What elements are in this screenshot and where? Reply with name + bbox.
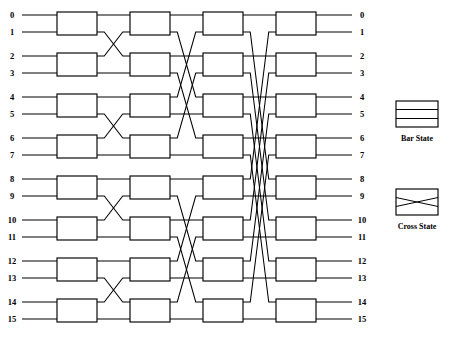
link-s3-cross-up-6 xyxy=(243,114,276,261)
switch-box-s4-p3[interactable] xyxy=(276,135,316,158)
switch-box-s3-p5[interactable] xyxy=(203,217,243,240)
switch-box-s3-p1[interactable] xyxy=(203,53,243,76)
input-label-0: 0 xyxy=(10,10,14,20)
legend-cross-state: Cross State xyxy=(396,189,438,231)
link-s3-cross-up-4 xyxy=(243,32,276,179)
switch-box-s4-p1[interactable] xyxy=(276,53,316,76)
switch-box-s4-p0[interactable] xyxy=(276,12,316,35)
switch-box-s1-p2[interactable] xyxy=(57,94,97,117)
link-s3-cross-up-5 xyxy=(243,73,276,220)
output-label-8: 8 xyxy=(360,174,364,184)
switch-box-s1-p0[interactable] xyxy=(57,12,97,35)
input-label-13: 13 xyxy=(8,273,17,283)
cross-state-label: Cross State xyxy=(398,222,437,231)
input-label-15: 15 xyxy=(8,314,17,324)
output-label-2: 2 xyxy=(360,51,364,61)
output-label-14: 14 xyxy=(358,297,367,307)
input-label-4: 4 xyxy=(10,92,15,102)
switch-box-s2-p7[interactable] xyxy=(130,299,170,322)
switch-box-s2-p2[interactable] xyxy=(130,94,170,117)
switch-box-s3-p2[interactable] xyxy=(203,94,243,117)
link-s2-cross-up-3 xyxy=(170,73,203,138)
link-s1-cross-up-5 xyxy=(97,196,130,220)
switch-box-s4-p2[interactable] xyxy=(276,94,316,117)
switch-box-s2-p1[interactable] xyxy=(130,53,170,76)
link-s1-cross-up-7 xyxy=(97,278,130,302)
input-label-9: 9 xyxy=(10,191,14,201)
network-canvas: 0123456789101112131415012345678910111213… xyxy=(0,0,449,338)
link-s3-cross-up-7 xyxy=(243,155,276,302)
switch-box-s3-p7[interactable] xyxy=(203,299,243,322)
output-label-5: 5 xyxy=(360,109,364,119)
input-label-7: 7 xyxy=(10,150,15,160)
input-label-11: 11 xyxy=(8,232,16,242)
switch-box-s2-p0[interactable] xyxy=(130,12,170,35)
switch-box-s3-p3[interactable] xyxy=(203,135,243,158)
switch-box-s2-p3[interactable] xyxy=(130,135,170,158)
network-diagram: 0123456789101112131415012345678910111213… xyxy=(0,0,449,338)
bar-state-box xyxy=(396,101,438,127)
switch-box-s2-p6[interactable] xyxy=(130,258,170,281)
switch-box-s1-p5[interactable] xyxy=(57,217,97,240)
switch-box-s4-p7[interactable] xyxy=(276,299,316,322)
input-label-8: 8 xyxy=(10,174,14,184)
output-label-11: 11 xyxy=(358,232,366,242)
output-label-13: 13 xyxy=(358,273,367,283)
switch-box-s3-p0[interactable] xyxy=(203,12,243,35)
output-label-9: 9 xyxy=(360,191,364,201)
input-label-6: 6 xyxy=(10,133,14,143)
link-s2-cross-up-6 xyxy=(170,196,203,261)
switch-box-s1-p7[interactable] xyxy=(57,299,97,322)
input-label-10: 10 xyxy=(8,215,17,225)
output-label-15: 15 xyxy=(358,314,367,324)
switch-box-s1-p6[interactable] xyxy=(57,258,97,281)
link-s2-cross-up-2 xyxy=(170,32,203,97)
input-label-5: 5 xyxy=(10,109,14,119)
output-label-0: 0 xyxy=(360,10,364,20)
output-label-6: 6 xyxy=(360,133,364,143)
bar-state-label: Bar State xyxy=(401,134,434,143)
link-s2-cross-up-7 xyxy=(170,237,203,302)
legend-bar-state: Bar State xyxy=(396,101,438,143)
output-label-12: 12 xyxy=(358,256,367,266)
input-label-1: 1 xyxy=(10,27,14,37)
switch-box-s4-p4[interactable] xyxy=(276,176,316,199)
switch-box-s1-p3[interactable] xyxy=(57,135,97,158)
input-label-2: 2 xyxy=(10,51,14,61)
switch-box-s3-p4[interactable] xyxy=(203,176,243,199)
switch-box-s2-p5[interactable] xyxy=(130,217,170,240)
switch-box-s4-p5[interactable] xyxy=(276,217,316,240)
output-label-4: 4 xyxy=(360,92,365,102)
switch-boxes-layer xyxy=(57,12,316,322)
input-label-12: 12 xyxy=(8,256,17,266)
input-label-3: 3 xyxy=(10,68,14,78)
input-label-14: 14 xyxy=(8,297,17,307)
switch-box-s2-p4[interactable] xyxy=(130,176,170,199)
output-label-7: 7 xyxy=(360,150,365,160)
switch-box-s1-p1[interactable] xyxy=(57,53,97,76)
link-s1-cross-up-3 xyxy=(97,114,130,138)
switch-box-s3-p6[interactable] xyxy=(203,258,243,281)
switch-box-s4-p6[interactable] xyxy=(276,258,316,281)
output-label-10: 10 xyxy=(358,215,367,225)
link-s1-cross-up-1 xyxy=(97,32,130,56)
output-label-3: 3 xyxy=(360,68,364,78)
switch-box-s1-p4[interactable] xyxy=(57,176,97,199)
output-label-1: 1 xyxy=(360,27,364,37)
